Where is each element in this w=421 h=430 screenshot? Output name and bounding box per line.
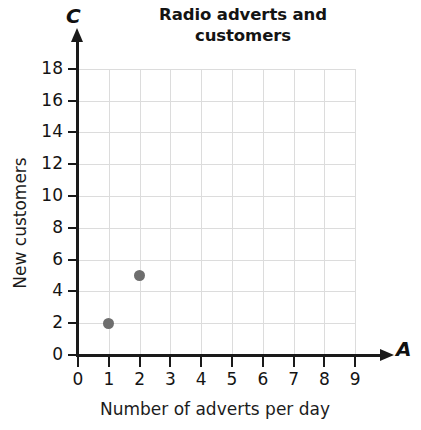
y-axis-tick	[68, 290, 78, 292]
y-axis-line	[76, 40, 79, 357]
x-axis-tick	[231, 357, 233, 367]
y-axis-tick	[68, 68, 78, 70]
y-axis-letter: C	[66, 4, 81, 28]
y-axis-tick	[68, 163, 78, 165]
x-axis-tick	[169, 357, 171, 367]
x-axis-tick	[262, 357, 264, 367]
y-axis-tick-label: 18	[0, 60, 63, 77]
x-axis-tick-label: 8	[309, 371, 339, 388]
x-axis-tick-label: 2	[125, 371, 155, 388]
chart-title: Radio adverts and customers	[108, 4, 378, 46]
data-point	[103, 318, 114, 329]
gridline-vertical	[232, 69, 233, 355]
gridline-horizontal	[78, 228, 355, 229]
gridline-vertical	[263, 69, 264, 355]
data-point	[134, 270, 145, 281]
y-axis-tick-label: 0	[0, 346, 63, 363]
x-axis-tick-label: 4	[186, 371, 216, 388]
x-axis-tick	[139, 357, 141, 367]
gridline-vertical	[140, 69, 141, 355]
x-axis-tick	[293, 357, 295, 367]
x-axis-tick	[323, 357, 325, 367]
gridline-horizontal	[78, 196, 355, 197]
y-axis-tick	[68, 131, 78, 133]
gridline-vertical	[170, 69, 171, 355]
y-axis-tick	[68, 100, 78, 102]
y-axis-tick	[68, 354, 78, 356]
x-axis-tick-label: 7	[279, 371, 309, 388]
x-axis-tick	[77, 357, 79, 367]
gridline-horizontal	[78, 101, 355, 102]
gridline-horizontal	[78, 291, 355, 292]
x-axis-letter: A	[396, 337, 411, 361]
x-axis-tick	[200, 357, 202, 367]
x-axis-tick-label: 9	[340, 371, 370, 388]
chart-title-line-2: customers	[108, 25, 378, 46]
y-axis-tick-label: 16	[0, 92, 63, 109]
gridline-vertical	[201, 69, 202, 355]
gridline-horizontal	[78, 323, 355, 324]
y-axis-arrow-icon	[71, 28, 83, 42]
x-axis-tick-label: 6	[248, 371, 278, 388]
y-axis-tick	[68, 227, 78, 229]
gridline-vertical	[324, 69, 325, 355]
plot-area	[78, 69, 355, 355]
gridline-horizontal	[78, 260, 355, 261]
gridline-vertical	[294, 69, 295, 355]
gridline-horizontal	[78, 69, 355, 70]
y-axis-tick	[68, 195, 78, 197]
gridline-horizontal	[78, 132, 355, 133]
y-axis-title: New customers	[10, 123, 30, 323]
chart-title-line-1: Radio adverts and	[108, 4, 378, 25]
gridline-vertical	[109, 69, 110, 355]
x-axis-tick	[108, 357, 110, 367]
gridline-horizontal	[78, 164, 355, 165]
x-axis-tick-label: 0	[63, 371, 93, 388]
x-axis-tick-label: 3	[155, 371, 185, 388]
y-axis-tick	[68, 259, 78, 261]
x-axis-tick-label: 1	[94, 371, 124, 388]
y-axis-tick	[68, 322, 78, 324]
x-axis-title: Number of adverts per day	[55, 399, 375, 419]
x-axis-tick-label: 5	[217, 371, 247, 388]
x-axis-tick	[354, 357, 356, 367]
scatter-chart: Radio adverts and customers C A 02468101…	[0, 0, 421, 430]
x-axis-arrow-icon	[380, 349, 394, 361]
gridline-vertical	[355, 69, 356, 355]
